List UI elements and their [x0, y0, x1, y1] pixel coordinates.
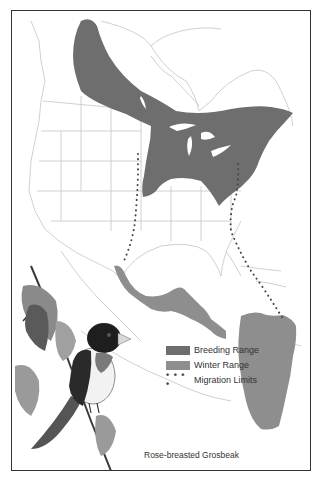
map-frame: Breeding Range Winter Range • • • • Migr… [11, 10, 311, 471]
winter-swatch [166, 361, 190, 370]
breeding-range [73, 19, 293, 206]
winter-range-central-america [114, 265, 226, 339]
legend-item-breeding: Breeding Range [166, 343, 259, 357]
legend-label: Migration Limits [194, 375, 257, 385]
range-map [12, 11, 311, 471]
legend-label: Breeding Range [194, 345, 259, 355]
legend-label: Winter Range [194, 360, 249, 370]
species-caption: Rose-breasted Grosbeak [144, 450, 239, 460]
legend-item-migration: • • • • Migration Limits [166, 373, 259, 387]
dotted-line-icon: • • • • [166, 371, 190, 389]
grosbeak-illustration [15, 266, 131, 471]
map-legend: Breeding Range Winter Range • • • • Migr… [166, 343, 259, 388]
breeding-swatch [166, 346, 190, 355]
